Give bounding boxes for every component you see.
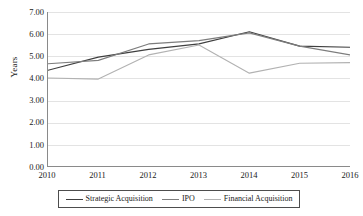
plot-area (47, 12, 350, 167)
x-axis-tick-labels: 2010201120122013201420152016 (47, 170, 350, 186)
series-line (48, 33, 350, 64)
series-line (48, 45, 350, 79)
x-axis-tick-label: 2013 (179, 170, 219, 180)
y-axis-tick-label: 3.00 (14, 96, 44, 105)
series-lines (48, 12, 350, 166)
y-axis-tick-labels: 7.006.005.004.003.002.001.000.00 (12, 0, 44, 216)
legend-line-swatch (162, 199, 179, 200)
legend-line-swatch (204, 199, 221, 200)
legend-item[interactable]: Strategic Acquisition (66, 195, 153, 203)
legend-label: IPO (182, 195, 195, 203)
chart-legend: Strategic AcquisitionIPOFinancial Acquis… (58, 190, 300, 208)
x-axis-tick-label: 2010 (27, 170, 67, 180)
x-axis-tick-label: 2012 (128, 170, 168, 180)
x-axis-tick-label: 2015 (280, 170, 320, 180)
y-axis-tick-label: 6.00 (14, 30, 44, 39)
series-line (48, 32, 350, 71)
legend-item[interactable]: IPO (162, 195, 195, 203)
y-axis-tick-label: 5.00 (14, 52, 44, 61)
legend-line-swatch (66, 199, 83, 200)
legend-item[interactable]: Financial Acquisition (204, 195, 293, 203)
y-axis-tick-label: 2.00 (14, 118, 44, 127)
y-axis-tick-label: 1.00 (14, 141, 44, 150)
y-axis-tick-label: 7.00 (14, 8, 44, 17)
y-axis-tick-label: 4.00 (14, 74, 44, 83)
x-axis-tick-label: 2016 (330, 170, 363, 180)
legend-label: Strategic Acquisition (86, 195, 153, 203)
x-axis-tick-label: 2011 (78, 170, 118, 180)
legend-label: Financial Acquisition (224, 195, 293, 203)
x-axis-tick-label: 2014 (229, 170, 269, 180)
